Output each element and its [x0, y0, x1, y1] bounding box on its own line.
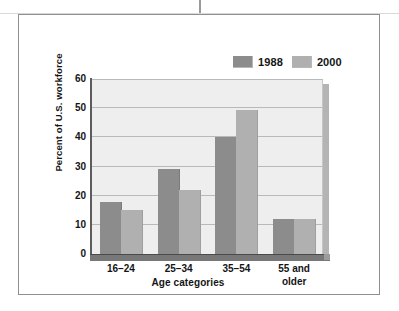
legend-swatch-1988-icon — [233, 56, 253, 68]
bar-2000-35-54 — [236, 110, 258, 254]
x-axis-base — [90, 254, 330, 261]
bar-2000-16-24 — [121, 210, 143, 254]
x-label-2: 35–54 — [208, 263, 266, 276]
legend-label-1988: 1988 — [258, 56, 283, 68]
page-top-tick-mark — [199, 0, 201, 13]
bar-1988-55-and-older — [273, 219, 295, 254]
x-axis-title: Age categories — [90, 277, 286, 288]
y-axis-tick-labels: 0102030405060 — [62, 74, 86, 259]
y-tick-label-50: 50 — [64, 103, 86, 113]
bar-2000-25-34 — [179, 190, 201, 254]
y-tick-label-40: 40 — [64, 132, 86, 142]
bar-1988-35-54 — [215, 137, 237, 254]
chart-figure-frame: 1988 2000 0102030405060 Percent of U.S. … — [18, 14, 380, 295]
bar-1988-16-24 — [100, 202, 122, 255]
chart-legend: 1988 2000 — [233, 56, 342, 68]
y-axis-title: Percent of U.S. workforce — [53, 53, 64, 173]
legend-swatch-2000-icon — [292, 56, 312, 68]
y-tick-label-20: 20 — [64, 191, 86, 201]
y-tick-label-30: 30 — [64, 162, 86, 172]
x-label-1: 25–34 — [150, 263, 208, 276]
gridline-40 — [92, 136, 322, 137]
bar-2000-55-and-older — [294, 219, 316, 254]
y-tick-label-60: 60 — [64, 74, 86, 84]
legend-item-1988[interactable]: 1988 — [233, 56, 283, 68]
x-label-0: 16–24 — [92, 263, 150, 276]
y-tick-label-10: 10 — [64, 220, 86, 230]
y-tick-label-0: 0 — [64, 249, 86, 259]
plot-area — [92, 79, 323, 254]
legend-item-2000[interactable]: 2000 — [292, 56, 342, 68]
gridline-50 — [92, 107, 322, 108]
gridline-20 — [92, 195, 322, 196]
bar-1988-25-34 — [158, 169, 180, 254]
x-axis-base-corner — [324, 254, 330, 260]
gridline-30 — [92, 166, 322, 167]
plot-area-shadow — [323, 84, 329, 259]
legend-label-2000: 2000 — [317, 56, 342, 68]
plot-wrapper — [92, 79, 329, 254]
